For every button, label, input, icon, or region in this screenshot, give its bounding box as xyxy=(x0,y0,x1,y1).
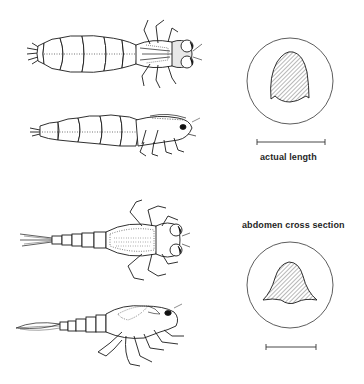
dragonfly-nymph-dorsal-illustration xyxy=(22,18,202,93)
scale-bar-bottom xyxy=(265,343,317,351)
damselfly-cross-section xyxy=(245,240,335,330)
scale-bar-line xyxy=(256,138,326,146)
dragonfly-nymph-lateral-illustration xyxy=(28,108,200,158)
abdomen-cross-section-label: abdomen cross section xyxy=(242,220,345,230)
cross-section-dome-diagram xyxy=(245,36,335,126)
damselfly-nymph-dorsal-illustration xyxy=(18,198,190,283)
dragonfly-lateral-drawing xyxy=(28,108,200,158)
scale-bar-line xyxy=(265,343,317,351)
dragonfly-dorsal-drawing xyxy=(22,18,202,93)
cross-section-bell-diagram xyxy=(245,240,335,330)
actual-length-label: actual length xyxy=(260,152,317,162)
dragonfly-cross-section xyxy=(245,36,335,126)
damselfly-dorsal-drawing xyxy=(18,198,190,283)
damselfly-lateral-drawing xyxy=(14,300,190,380)
scale-bar-top xyxy=(256,138,326,146)
damselfly-nymph-lateral-illustration xyxy=(14,300,190,380)
